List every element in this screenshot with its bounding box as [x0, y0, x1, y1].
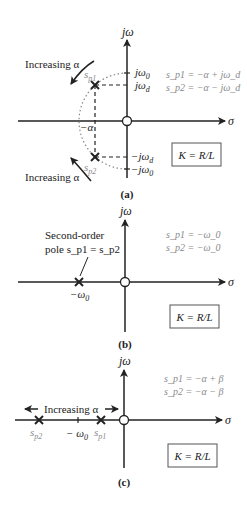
zero-marker: [120, 416, 129, 425]
pole-equal-label: pole s_p1 = s_p2: [45, 243, 120, 255]
neg-alpha-label: −α: [80, 121, 93, 133]
second-order-label: Second-order: [45, 229, 105, 241]
neg-w0-label: − ω0: [66, 427, 88, 442]
k-equation: K = R/L: [177, 149, 214, 161]
pointer-line: [80, 257, 88, 276]
jwd-label: jωd: [133, 79, 151, 94]
imag-axis-label: jω: [118, 204, 132, 218]
equation-sp2: s_p2 = −α − jω_d: [166, 82, 241, 93]
imag-axis-label: jω: [120, 25, 134, 39]
panel-c: jω σ Increasing α sp2 − ω0 sp1 s_p1 = −α…: [15, 354, 232, 489]
real-axis-label: σ: [228, 275, 235, 289]
zero-marker: [121, 278, 130, 287]
real-axis-label: σ: [228, 114, 235, 128]
equation-sp1: s_p1 = −α + β: [164, 373, 223, 384]
panel-b: jω σ Second-order pole s_p1 = s_p2 −ω0 s…: [18, 204, 235, 351]
sp1-label: sp1: [94, 426, 106, 441]
real-axis-label: σ: [225, 413, 232, 427]
increasing-alpha-top: Increasing α: [25, 58, 80, 70]
caption-c: (c): [118, 476, 131, 489]
panel-a: jω σ sp1 sp2 jω0 jωd −jωd −jω0 −α Increa…: [18, 25, 241, 201]
increasing-alpha-label: Increasing α: [44, 403, 99, 415]
pole-diagram-figure: jω σ sp1 sp2 jω0 jωd −jωd −jω0 −α Increa…: [0, 0, 247, 509]
caption-b: (b): [118, 338, 132, 351]
equation-sp1: s_p1 = −α + jω_d: [166, 69, 241, 80]
increasing-alpha-bottom: Increasing α: [25, 171, 80, 183]
equation-sp2: s_p2 = −ω_0: [166, 242, 220, 253]
zero-marker: [123, 117, 132, 126]
k-equation: K = R/L: [175, 311, 212, 323]
k-equation: K = R/L: [173, 450, 210, 462]
sp1-label: sp1: [84, 68, 96, 83]
sp2-label: sp2: [30, 426, 42, 441]
neg-jw0-label: −jω0: [131, 163, 153, 178]
neg-w0-label: −ω0: [70, 288, 89, 303]
equation-sp1: s_p1 = −ω_0: [166, 229, 220, 240]
equation-sp2: s_p2 = −α − β: [164, 386, 223, 397]
caption-a: (a): [121, 188, 134, 201]
imag-axis-label: jω: [117, 354, 131, 368]
